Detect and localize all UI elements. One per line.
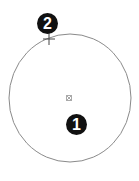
center-marker-icon: [67, 96, 72, 101]
cross-marker-icon: [43, 33, 55, 45]
callout-badge-1: 1: [66, 114, 87, 135]
callout-badge-2: 2: [37, 13, 58, 34]
diagram-canvas: [0, 0, 139, 181]
circle-shape: [9, 34, 131, 162]
